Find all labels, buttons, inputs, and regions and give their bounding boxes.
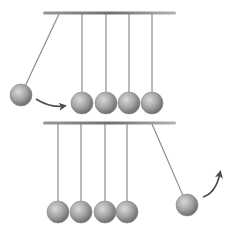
ball-raised-left	[10, 84, 32, 106]
ball-rest	[94, 201, 116, 223]
pendulum-string	[152, 124, 183, 195]
ball-raised-right	[176, 194, 198, 216]
ball-rest	[116, 201, 138, 223]
support-bar	[43, 12, 176, 15]
newtons-cradle-diagram	[0, 0, 233, 237]
ball-rest	[71, 92, 93, 114]
ball-rest	[47, 201, 69, 223]
ball-rest	[141, 92, 163, 114]
ball-rest	[70, 201, 92, 223]
panel-after-collision	[43, 122, 220, 224]
support-bar	[43, 122, 176, 125]
ball-rest	[118, 92, 140, 114]
motion-arrow-icon	[203, 173, 220, 197]
motion-arrow-icon	[36, 99, 64, 106]
pendulum-string	[26, 14, 59, 85]
ball-rest	[95, 92, 117, 114]
panel-before-collision	[10, 12, 176, 115]
